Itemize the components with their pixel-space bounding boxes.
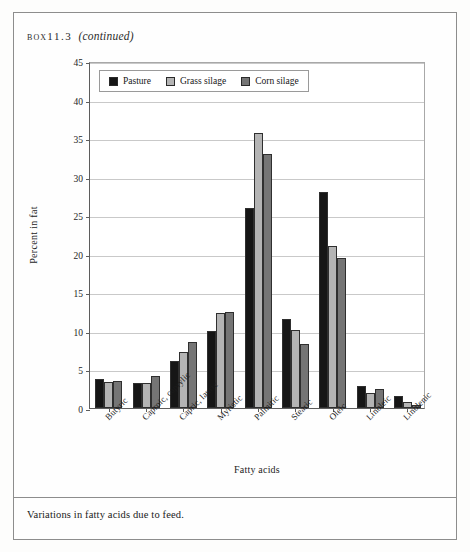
caption-divider [13, 497, 457, 498]
bar-group [318, 192, 347, 408]
y-tick-label: 0 [78, 405, 83, 415]
legend-item-corn-silage: Corn silage [241, 76, 299, 86]
y-tick-label: 30 [74, 174, 84, 184]
bars-layer [90, 63, 424, 408]
plot-area: 051015202530354045 [89, 62, 425, 409]
box-header: box11.3(continued) [27, 30, 134, 42]
bar [337, 258, 346, 408]
legend-item-pasture: Pasture [109, 76, 151, 86]
legend-label: Grass silage [180, 76, 226, 86]
y-tick-label: 40 [74, 97, 84, 107]
bar [104, 382, 113, 408]
y-tick-label: 15 [74, 289, 84, 299]
bar [95, 379, 104, 408]
bar [245, 208, 254, 408]
bar [319, 192, 328, 408]
bar [254, 133, 263, 408]
bar [263, 154, 272, 408]
y-axis-title: Percent in fat [28, 206, 39, 264]
bar [225, 312, 234, 408]
bar [133, 383, 142, 408]
legend-label: Corn silage [255, 76, 299, 86]
bar [291, 330, 300, 408]
legend-swatch-icon [241, 77, 250, 86]
box-number: 11.3 [47, 30, 72, 42]
bar [394, 396, 403, 408]
y-tick-label: 25 [74, 212, 84, 222]
bar-group [281, 319, 310, 408]
legend-swatch-icon [109, 77, 118, 86]
box-continued-note: (continued) [78, 30, 133, 42]
page-canvas: box11.3(continued) Percent in fat 051015… [0, 0, 470, 552]
y-tick-label: 5 [78, 366, 83, 376]
bar [216, 313, 225, 408]
x-axis-title: Fatty acids [89, 464, 425, 475]
bar-group [244, 133, 273, 408]
bar [357, 386, 366, 408]
legend-label: Pasture [123, 76, 151, 86]
chart-figure: Percent in fat 051015202530354045 Pastur… [27, 52, 441, 472]
y-tick-label: 45 [74, 58, 84, 68]
y-tick-label: 20 [74, 251, 84, 261]
y-tick-label: 10 [74, 328, 84, 338]
legend-swatch-icon [166, 77, 175, 86]
bar [328, 246, 337, 408]
box-label: box [27, 30, 47, 42]
y-tick-mark [86, 410, 90, 411]
bar [282, 319, 291, 408]
legend-item-grass-silage: Grass silage [166, 76, 226, 86]
figure-caption: Variations in fatty acids due to feed. [27, 509, 184, 520]
y-tick-label: 35 [74, 135, 84, 145]
chart-legend: PastureGrass silageCorn silage [99, 70, 309, 92]
